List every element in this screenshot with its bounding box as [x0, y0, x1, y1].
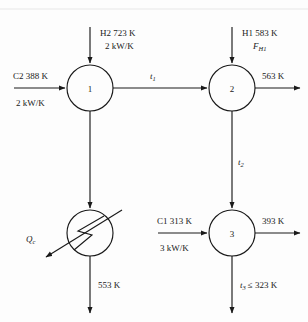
label-unit3-outlet-temp: 393 K: [262, 216, 285, 226]
label-t2-subscript: 2: [241, 161, 245, 168]
unit-1-label: 1: [88, 84, 93, 94]
label-qc-subscript: c: [33, 238, 36, 245]
unit-2-label: 2: [230, 84, 235, 94]
label-h2-stream: H2 723 K: [100, 28, 136, 38]
label-t3-constraint-value: ≤ 323 K: [248, 280, 278, 290]
label-h1-stream: H1 583 K: [242, 28, 278, 38]
label-c2-cp: 2 kW/K: [16, 98, 45, 108]
label-h1-flow-subscript: H1: [258, 45, 267, 52]
label-cooler-outlet-temp: 553 K: [98, 280, 121, 290]
label-t1-subscript: 1: [153, 75, 156, 82]
label-unit2-outlet-temp: 563 K: [262, 71, 285, 81]
label-c1-stream: C1 313 K: [157, 216, 193, 226]
label-c1-cp: 3 kW/K: [160, 243, 189, 253]
label-t3-constraint: t3≤ 323 K: [240, 280, 278, 291]
label-qc-duty: Qc: [26, 234, 36, 245]
stream-qc-duty-arrow: [46, 210, 122, 257]
label-t2: t2: [238, 157, 245, 168]
diagram-canvas: 1 2 3 H2 723 K 2 kW/K H1 583 K FH1 C2 38…: [0, 0, 308, 322]
label-h1-flow: FH1: [252, 41, 266, 52]
label-h2-cp: 2 kW/K: [105, 41, 134, 51]
cooler-circle[interactable]: [67, 210, 113, 256]
unit-3-label: 3: [230, 229, 235, 239]
lightning-bolt-icon: [74, 216, 104, 250]
label-t3-subscript: 3: [242, 284, 247, 291]
label-c2-stream: C2 388 K: [13, 71, 49, 81]
label-t1: t1: [150, 71, 156, 82]
